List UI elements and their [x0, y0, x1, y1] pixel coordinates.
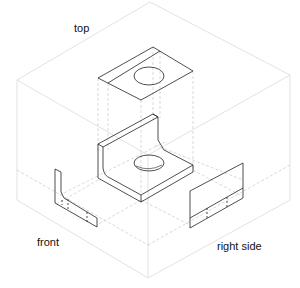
front-view: [55, 169, 97, 227]
top-view-plate: [98, 47, 193, 100]
label-front: front: [37, 236, 59, 248]
projection-lines: [17, 47, 290, 245]
label-top: top: [74, 22, 89, 34]
isometric-object: [98, 114, 193, 202]
label-right-side: right side: [217, 240, 262, 252]
